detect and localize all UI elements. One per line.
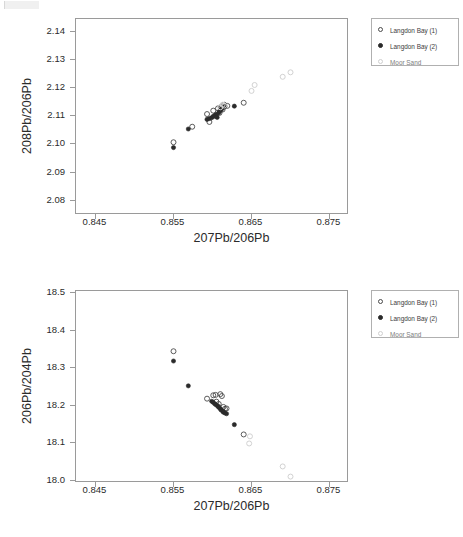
legend-item-label: Langdon Bay (2)	[390, 315, 437, 323]
y-tick-mark	[70, 442, 75, 443]
legend-bottom: Langdon Bay (1)Langdon Bay (2)Moor Sand	[371, 290, 459, 338]
y-tick-mark	[70, 292, 75, 293]
legend-item-label: Moor Sand	[390, 331, 421, 339]
y-tick-label: 2.11	[25, 110, 65, 120]
legend-item-label: Moor Sand	[390, 59, 421, 67]
x-axis-label-bottom: 207Pb/206Pb	[0, 499, 463, 513]
figure-top-chart: Langdon Bay (1)Langdon Bay (2)Moor Sand …	[0, 0, 463, 268]
data-point	[288, 474, 293, 479]
data-point	[280, 464, 285, 469]
plot-area-top	[75, 18, 348, 214]
y-tick-label: 2.14	[25, 26, 65, 36]
data-point	[205, 112, 210, 117]
data-point	[232, 423, 236, 427]
open-circle-icon	[377, 26, 386, 35]
data-point	[241, 432, 246, 437]
x-tick-label: 0.855	[148, 217, 198, 227]
legend-top: Langdon Bay (1)Langdon Bay (2)Moor Sand	[371, 18, 459, 66]
x-tick-label: 0.865	[226, 485, 276, 495]
legend-item[interactable]: Langdon Bay (1)	[377, 24, 454, 37]
y-tick-label: 2.12	[25, 82, 65, 92]
y-tick-mark	[70, 143, 75, 144]
data-point	[171, 359, 175, 363]
data-point	[247, 434, 252, 439]
open-circle-icon	[377, 298, 386, 307]
y-tick-mark	[70, 172, 75, 173]
legend-item[interactable]: Langdon Bay (2)	[377, 312, 454, 325]
light-circle-icon	[377, 330, 386, 339]
data-point	[224, 412, 228, 416]
data-point	[186, 384, 190, 388]
y-tick-mark	[70, 367, 75, 368]
x-tick-label: 0.865	[226, 217, 276, 227]
y-tick-label: 18.0	[25, 475, 65, 485]
data-point	[232, 104, 236, 108]
y-tick-mark	[70, 31, 75, 32]
y-tick-label: 18.5	[25, 287, 65, 297]
data-point	[249, 88, 254, 93]
data-point	[215, 115, 219, 119]
x-tick-label: 0.845	[70, 485, 120, 495]
scatter-points-bottom	[76, 291, 349, 483]
legend-item-label: Langdon Bay (1)	[390, 27, 437, 35]
legend-item[interactable]: Moor Sand	[377, 328, 454, 341]
y-tick-mark	[70, 87, 75, 88]
y-tick-mark	[70, 59, 75, 60]
figure-bottom-chart: Langdon Bay (1)Langdon Bay (2)Moor Sand …	[0, 268, 463, 537]
y-tick-label: 18.3	[25, 362, 65, 372]
legend-item-label: Langdon Bay (1)	[390, 299, 437, 307]
x-tick-label: 0.845	[70, 217, 120, 227]
data-point	[171, 146, 175, 150]
y-axis-label-bottom: 206Pb/204Pb	[20, 348, 34, 424]
y-tick-label: 2.08	[25, 195, 65, 205]
y-tick-label: 18.1	[25, 437, 65, 447]
data-point	[252, 82, 257, 87]
data-point	[241, 100, 246, 105]
y-tick-mark	[70, 405, 75, 406]
scatter-points-top	[76, 19, 349, 215]
x-axis-label-top: 207Pb/206Pb	[0, 231, 463, 245]
legend-item[interactable]: Langdon Bay (2)	[377, 40, 454, 53]
data-point	[247, 441, 252, 446]
y-tick-label: 2.09	[25, 167, 65, 177]
data-point	[205, 396, 210, 401]
data-point	[171, 140, 176, 145]
data-point	[186, 127, 190, 131]
x-tick-label: 0.875	[304, 217, 354, 227]
data-point	[280, 74, 285, 79]
filled-circle-icon	[377, 42, 386, 51]
y-tick-mark	[70, 115, 75, 116]
filled-circle-icon	[377, 314, 386, 323]
series-3	[247, 434, 293, 479]
series-2	[171, 359, 236, 427]
x-tick-label: 0.855	[148, 485, 198, 495]
y-tick-label: 2.10	[25, 138, 65, 148]
plot-area-bottom	[75, 290, 348, 482]
y-tick-label: 18.2	[25, 400, 65, 410]
light-circle-icon	[377, 58, 386, 67]
legend-item[interactable]: Langdon Bay (1)	[377, 296, 454, 309]
legend-item[interactable]: Moor Sand	[377, 56, 454, 69]
y-tick-label: 2.13	[25, 54, 65, 64]
y-tick-mark	[70, 200, 75, 201]
y-tick-mark	[70, 480, 75, 481]
y-tick-label: 18.4	[25, 325, 65, 335]
data-point	[288, 70, 293, 75]
data-point	[171, 349, 176, 354]
x-tick-label: 0.875	[304, 485, 354, 495]
legend-item-label: Langdon Bay (2)	[390, 43, 437, 51]
y-tick-mark	[70, 330, 75, 331]
series-2	[171, 104, 236, 150]
